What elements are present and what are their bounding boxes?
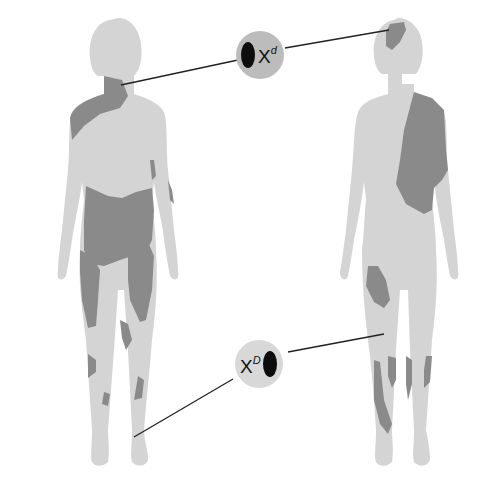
left-head <box>90 18 142 82</box>
left-female-figure <box>58 18 179 466</box>
callout-xD: XD <box>235 340 283 388</box>
top-line-right <box>285 30 389 48</box>
right-female-figure <box>340 18 458 466</box>
bottom-line-left <box>134 379 233 437</box>
allele-oval-bottom <box>263 351 277 377</box>
diagram-canvas: Xd XD <box>0 0 503 491</box>
allele-oval-top <box>241 42 255 68</box>
callout-xd: Xd <box>236 31 284 79</box>
right-patch-right-calf-inner <box>406 356 412 400</box>
